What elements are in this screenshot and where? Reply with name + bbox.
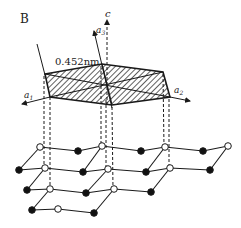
filled-node <box>24 187 31 194</box>
filled-node <box>83 190 90 197</box>
filled-node <box>91 210 98 217</box>
open-node <box>55 206 62 213</box>
a2-axis: a2 <box>170 85 190 101</box>
filled-node <box>75 148 82 155</box>
a1-axis: a1 <box>22 90 50 104</box>
filled-node <box>138 148 145 155</box>
c-axis-label: c <box>105 8 111 19</box>
filled-node <box>148 189 155 196</box>
filled-node <box>16 167 23 174</box>
open-node <box>167 165 174 172</box>
open-node <box>162 144 169 151</box>
a1-axis-label: a1 <box>24 90 33 101</box>
open-node <box>42 165 49 172</box>
open-node <box>111 186 118 193</box>
filled-node <box>143 169 150 176</box>
filled-node <box>80 169 87 176</box>
a2-axis-label: a2 <box>174 85 183 96</box>
distance-leader-line <box>37 44 45 75</box>
open-node <box>99 143 106 150</box>
open-node <box>225 143 232 150</box>
filled-node <box>200 148 207 155</box>
open-node <box>37 144 44 151</box>
filled-node <box>207 167 214 174</box>
hexagonal-lattice-diagram: B c a3 0.452nm a1 a2 <box>0 0 241 228</box>
lattice-nodes <box>16 143 232 217</box>
open-node <box>47 186 54 193</box>
panel-label: B <box>20 12 29 26</box>
filled-node <box>29 207 36 214</box>
open-node <box>105 166 112 173</box>
a3-axis-label: a3 <box>96 25 105 36</box>
